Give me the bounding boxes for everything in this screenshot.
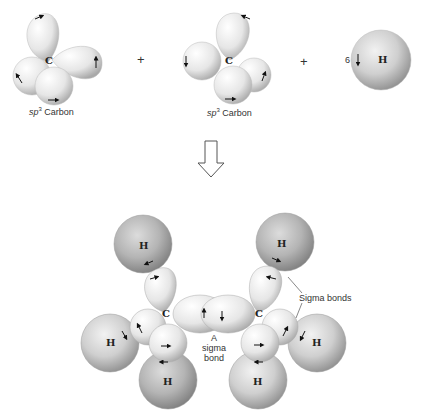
carbon-2-atom-label: C [225,55,233,66]
sigma-bonds-label: Sigma bonds [299,293,352,303]
h-label-bottom-left: H [163,376,172,387]
carbon-1-atom-label: C [45,55,53,66]
h-label-left: H [106,337,115,348]
c-label-right: C [255,308,263,319]
carbon-2-caption: sp3 Carbon [207,107,252,118]
h-label-top-left: H [139,240,148,251]
hydrogen-count: 6 [345,55,350,65]
sp3-carbon-1 [13,14,102,105]
plus-sign-2: + [300,54,308,69]
h-label-top-right: H [277,238,286,249]
h-label-bottom-right: H [253,376,262,387]
a-sigma-bond-label: A sigma bond [199,333,229,363]
carbon-1-caption: sp3 Carbon [29,106,74,117]
plus-sign-1: + [137,52,145,67]
c-label-left: C [162,308,170,319]
hydrogen-atom-label: H [378,54,387,65]
h-label-right: H [312,337,321,348]
hollow-down-arrow-icon [198,141,224,177]
ethane-molecule [81,213,346,409]
